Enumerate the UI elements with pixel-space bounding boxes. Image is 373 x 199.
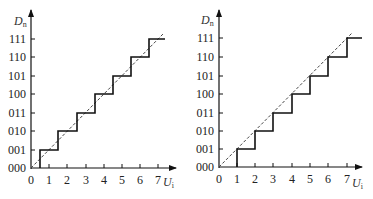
right-y-axis-label: Dn [200,13,214,28]
x-tick-label: 2 [252,172,258,186]
x-tick-label: 2 [64,173,70,187]
y-tick-label: 011 [196,106,214,120]
left-x-tick-labels: 0 1 2 3 4 5 6 7 [28,173,161,187]
y-tick-label: 010 [8,124,26,138]
y-tick-label: 001 [8,143,26,157]
y-tick-label: 111 [9,32,26,46]
left-chart: 000 001 010 011 100 101 110 111 0 1 2 3 … [8,10,176,190]
x-tick-label: 3 [270,172,276,186]
x-tick-label: 3 [83,173,89,187]
right-ideal-dashed-line [219,33,352,167]
y-tick-label: 111 [197,31,214,45]
x-tick-label: 4 [289,172,295,186]
x-tick-label: 6 [325,172,331,186]
x-tick-label: 7 [155,173,161,187]
y-tick-label: 101 [196,69,214,83]
right-x-axis-label: Ui [352,176,364,191]
x-tick-label: 4 [101,173,107,187]
x-tick-label: 0 [28,173,34,187]
left-ideal-dashed-line [31,34,163,168]
y-tick-label: 100 [8,87,26,101]
x-tick-label: 0 [216,172,222,186]
right-y-tick-labels: 000 001 010 011 100 101 110 111 [196,31,214,174]
left-y-tick-labels: 000 001 010 011 100 101 110 111 [8,32,26,175]
right-chart: 000 001 010 011 100 101 110 111 0 1 2 3 … [196,10,364,191]
right-x-tick-labels: 0 1 2 3 4 5 6 7 [216,172,350,186]
x-tick-label: 5 [307,172,313,186]
x-tick-label: 6 [137,173,143,187]
y-tick-label: 110 [196,50,214,64]
y-tick-label: 011 [8,106,26,120]
y-tick-label: 000 [8,161,26,175]
left-y-axis-label: Dn [13,14,27,29]
x-tick-label: 7 [344,172,350,186]
y-tick-label: 000 [196,160,214,174]
x-tick-label: 1 [234,172,240,186]
y-tick-label: 001 [196,142,214,156]
y-tick-label: 100 [196,87,214,101]
y-tick-label: 010 [196,124,214,138]
left-x-axis-label: Ui [163,175,175,190]
x-tick-label: 5 [119,173,125,187]
y-tick-label: 110 [8,50,26,64]
right-staircase [237,38,362,167]
x-tick-label: 1 [46,173,52,187]
adc-transfer-diagrams: 000 001 010 011 100 101 110 111 0 1 2 3 … [0,0,373,199]
left-staircase [40,39,165,168]
y-tick-label: 101 [8,69,26,83]
